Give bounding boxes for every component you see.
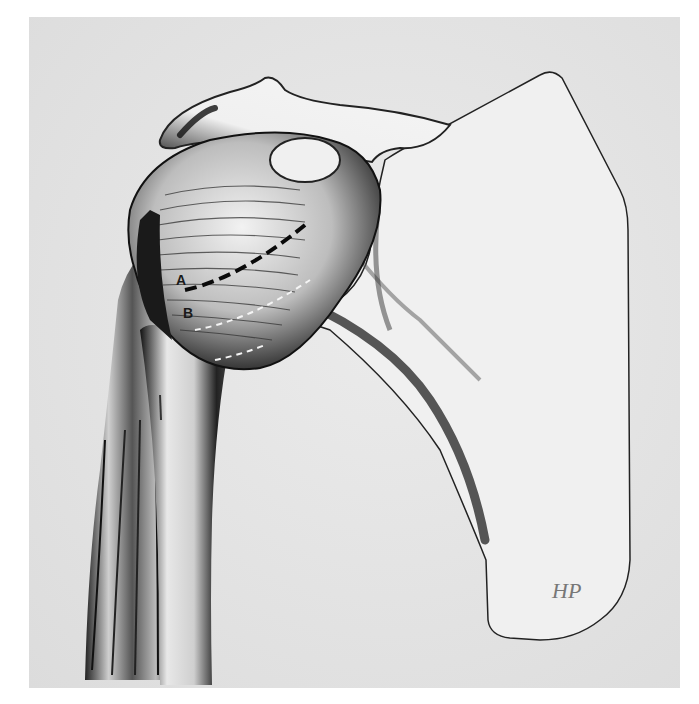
label-a: A (176, 272, 186, 288)
shoulder-illustration (0, 0, 699, 704)
label-b: B (183, 305, 193, 321)
artist-signature: HP (552, 578, 581, 604)
